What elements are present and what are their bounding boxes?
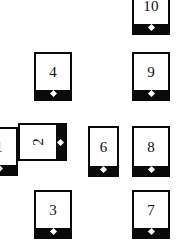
card-10[interactable]: 10 (132, 0, 170, 35)
card-3-number: 3 (36, 192, 70, 228)
card-8[interactable]: 8 (132, 126, 170, 177)
card-9[interactable]: 9 (132, 52, 170, 101)
card-8-number: 8 (134, 128, 168, 166)
card-6-number: 6 (90, 128, 117, 166)
card-7-number: 7 (134, 192, 168, 228)
card-4-number: 4 (36, 54, 70, 90)
card-1[interactable]: 1 (0, 127, 18, 176)
numbered-card-board: 1234678910 (0, 0, 176, 246)
card-1-bar (0, 165, 16, 174)
card-10-number: 10 (134, 0, 168, 24)
card-9-number: 9 (134, 54, 168, 90)
card-1-number: 1 (0, 129, 16, 165)
card-7[interactable]: 7 (132, 190, 170, 239)
card-2-number: 2 (21, 124, 55, 160)
card-3[interactable]: 3 (34, 190, 72, 239)
card-6[interactable]: 6 (88, 126, 119, 177)
card-2[interactable]: 2 (18, 123, 67, 161)
card-4[interactable]: 4 (34, 52, 72, 101)
